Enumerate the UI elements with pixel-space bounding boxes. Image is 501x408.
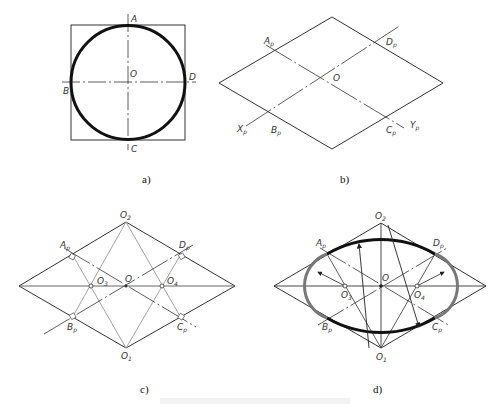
label-O: O bbox=[125, 274, 132, 284]
label-Cp: Cp bbox=[386, 125, 396, 137]
label-O3: O3 bbox=[97, 276, 108, 287]
construction-line bbox=[72, 222, 126, 318]
point-O bbox=[379, 284, 383, 288]
point-O3 bbox=[343, 284, 347, 288]
panel-b: Ap Dp O Xp Bp Cp Yp b) bbox=[219, 17, 443, 186]
axis-Yp bbox=[64, 248, 196, 327]
label-O2: O2 bbox=[375, 211, 386, 222]
point-O bbox=[125, 285, 128, 288]
axis-Xp bbox=[44, 245, 193, 334]
axis-Yp bbox=[320, 248, 450, 326]
point-O3 bbox=[89, 284, 93, 288]
label-D: D bbox=[189, 72, 196, 82]
label-Bp: Bp bbox=[271, 125, 281, 137]
label-Cp: Cp bbox=[432, 322, 442, 334]
axis-Yp bbox=[266, 45, 404, 128]
label-O3: O3 bbox=[341, 290, 352, 301]
label-Dp: Dp bbox=[386, 37, 397, 49]
caption-c: c) bbox=[140, 383, 149, 396]
label-A: A bbox=[130, 14, 137, 24]
label-Ap: Ap bbox=[59, 240, 70, 252]
label-Yp: Yp bbox=[410, 120, 420, 132]
figure-canvas: A B C D O a) Ap Dp O Xp Bp Cp Yp b) bbox=[0, 0, 501, 408]
construction-line bbox=[126, 222, 181, 318]
panel-c: O2 Ap Dp O3 O O4 Bp Cp O1 c) bbox=[19, 210, 235, 396]
label-O4: O4 bbox=[167, 276, 178, 287]
radius-arrow-O2 bbox=[388, 225, 419, 327]
label-Bp: Bp bbox=[322, 322, 332, 334]
label-O: O bbox=[130, 69, 137, 79]
label-O: O bbox=[333, 73, 340, 83]
caption-b: b) bbox=[340, 173, 350, 186]
caption-d: d) bbox=[373, 383, 383, 396]
label-B: B bbox=[63, 86, 69, 96]
label-Dp: Dp bbox=[433, 238, 444, 250]
label-O: O bbox=[382, 273, 389, 283]
label-O4: O4 bbox=[414, 290, 425, 301]
point-O4 bbox=[160, 284, 164, 288]
label-Bp: Bp bbox=[67, 322, 77, 334]
construction-line bbox=[126, 254, 181, 348]
label-C: C bbox=[131, 144, 138, 154]
point-O4 bbox=[415, 284, 419, 288]
label-O2: O2 bbox=[120, 210, 131, 221]
panel-d: O2 Ap Dp O O3 O4 Bp Cp O1 d) bbox=[274, 211, 486, 396]
label-Cp: Cp bbox=[177, 322, 187, 334]
label-O1: O1 bbox=[121, 351, 132, 362]
label-Xp: Xp bbox=[236, 124, 247, 136]
label-O1: O1 bbox=[376, 352, 387, 363]
figure-caption-illegible bbox=[160, 398, 350, 404]
panel-a: A B C D O a) bbox=[62, 14, 196, 186]
caption-a: a) bbox=[142, 173, 151, 186]
